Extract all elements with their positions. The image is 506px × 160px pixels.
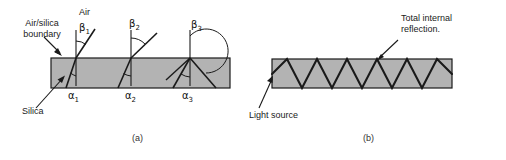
panel-a-caption: (a) bbox=[132, 133, 143, 143]
beta-arc-2 bbox=[131, 38, 145, 44]
panel-b-caption: (b) bbox=[363, 133, 374, 143]
beta-1-subscript: 1 bbox=[85, 28, 89, 36]
light-source-label: Light source bbox=[249, 110, 298, 121]
air-label: Air bbox=[79, 7, 90, 18]
alpha-3-label: α3 bbox=[182, 90, 193, 104]
air-silica-boundary-label: Air/silicaboundary bbox=[8, 18, 76, 40]
alpha-3-subscript: 3 bbox=[189, 96, 193, 104]
beta-3-label: β3 bbox=[191, 19, 202, 33]
alpha-2-label: α2 bbox=[125, 90, 136, 104]
alpha-1-subscript: 1 bbox=[75, 96, 79, 104]
panel-b-group bbox=[259, 40, 452, 108]
alpha-3-symbol: α bbox=[182, 90, 189, 101]
alpha-2-symbol: α bbox=[125, 90, 132, 101]
beta-2-subscript: 2 bbox=[135, 24, 139, 32]
alpha-2-subscript: 2 bbox=[132, 96, 136, 104]
alpha-1-label: α1 bbox=[68, 90, 79, 104]
total-internal-reflection-leader bbox=[377, 40, 398, 61]
alpha-1-symbol: α bbox=[68, 90, 75, 101]
beta-3-subscript: 3 bbox=[197, 25, 201, 33]
beta-2-label: β2 bbox=[129, 18, 140, 32]
silica-label: Silica bbox=[22, 106, 44, 117]
total-internal-reflection-line2: reflection. bbox=[401, 24, 440, 34]
light-source-leader bbox=[259, 76, 273, 109]
beta-1-label: β1 bbox=[79, 22, 90, 36]
total-internal-reflection-line1: Total internal bbox=[401, 13, 452, 23]
refracted-ray-2 bbox=[131, 33, 157, 58]
air-silica-boundary-line1: Air/silica bbox=[25, 18, 59, 28]
total-internal-reflection-label: Total internalreflection. bbox=[401, 13, 452, 35]
beta-arc-1 bbox=[76, 41, 86, 45]
air-silica-boundary-line2: boundary bbox=[23, 29, 61, 39]
